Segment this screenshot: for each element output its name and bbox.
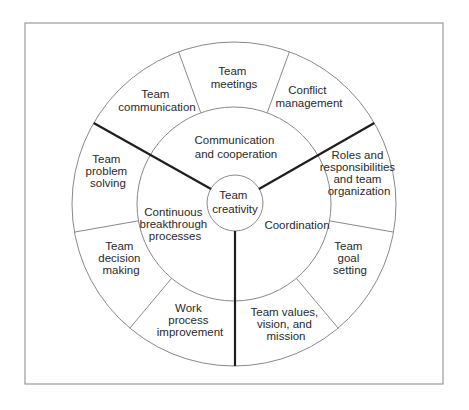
label-line: problem <box>86 165 128 177</box>
center-label: Team creativity <box>212 189 258 215</box>
label-line: solving <box>90 177 126 189</box>
label-line: and team <box>333 173 381 185</box>
label-line: meetings <box>211 78 258 90</box>
inner-label-communication-cooperation: Communication and cooperation <box>194 134 277 160</box>
label-line: Team <box>141 88 169 100</box>
label-line: Team <box>105 240 133 252</box>
label-line: Team <box>92 153 120 165</box>
label-line: and cooperation <box>195 148 277 160</box>
label-line: decision <box>98 252 140 264</box>
label-line: Coordination <box>264 219 329 231</box>
label-line: setting <box>333 264 367 276</box>
divider-roles-goal <box>330 221 394 232</box>
outer-label-team-decision-making: Team decision making <box>98 240 143 276</box>
label-line: communication <box>118 101 195 113</box>
label-line: improvement <box>157 326 224 338</box>
team-creativity-wheel: Team creativity Communication and cooper… <box>0 0 469 410</box>
center-label-line: Team <box>219 189 247 201</box>
label-line: Team <box>334 240 362 252</box>
outer-label-team-communication: Team communication <box>118 88 195 113</box>
label-line: Continuous <box>144 206 202 218</box>
label-line: goal <box>338 252 360 264</box>
outer-label-team-goal-setting: Team goal setting <box>333 240 367 276</box>
outer-label-team-values: Team values, vision, and mission <box>251 306 322 342</box>
inner-label-coordination: Coordination <box>264 219 329 231</box>
label-line: Work <box>175 302 202 314</box>
inner-label-continuous-breakthrough: Continuous breakthrough processes <box>140 206 211 242</box>
label-line: process <box>168 314 209 326</box>
label-line: breakthrough <box>140 218 208 230</box>
label-line: Communication <box>194 134 274 146</box>
outer-label-team-problem-solving: Team problem solving <box>86 153 131 189</box>
outer-label-conflict-management: Conflict management <box>275 84 343 109</box>
divider-work-decision <box>130 278 172 328</box>
label-line: mission <box>267 330 306 342</box>
outer-label-team-meetings: Team meetings <box>211 65 258 90</box>
outer-label-work-process: Work process improvement <box>157 302 224 338</box>
label-line: Conflict <box>288 84 327 96</box>
label-line: management <box>275 97 343 109</box>
label-line: processes <box>149 230 202 242</box>
divider-decision-problem <box>75 221 139 232</box>
label-line: Team values, <box>251 306 319 318</box>
label-line: vision, and <box>257 318 312 330</box>
outer-label-roles-responsibilities: Roles and responsibilities and team orga… <box>320 149 399 197</box>
center-label-line: creativity <box>212 203 258 215</box>
label-line: responsibilities <box>320 161 396 173</box>
label-line: organization <box>328 185 391 197</box>
label-line: Team <box>218 65 246 77</box>
label-line: making <box>102 264 139 276</box>
label-line: Roles and <box>332 149 384 161</box>
